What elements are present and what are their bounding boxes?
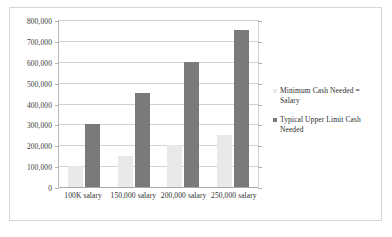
- y-axis-tick-label: 400,000: [27, 100, 52, 109]
- bars-layer: [59, 20, 258, 187]
- y-axis-tick-label: 100,000: [27, 163, 52, 172]
- legend-item[interactable]: Minimum Cash Needed = Salary: [273, 86, 377, 106]
- plot-area: 800,000700,000600,000500,000400,000300,0…: [58, 20, 259, 187]
- bar: [234, 30, 249, 187]
- bar: [85, 124, 100, 187]
- legend-label: Minimum Cash Needed = Salary: [280, 86, 377, 106]
- bar: [184, 62, 199, 187]
- y-axis-tick-mark-right: [258, 84, 262, 85]
- bar: [118, 156, 133, 187]
- y-axis-tick-label: 800,000: [27, 17, 52, 26]
- x-axis-label: 150,000 salary: [108, 191, 158, 201]
- y-axis-tick-mark-right: [258, 42, 262, 43]
- chart-container: 800,000700,000600,000500,000400,000300,0…: [9, 7, 382, 221]
- x-axis-label: 100K salary: [58, 191, 108, 201]
- legend-swatch-icon: [273, 118, 277, 122]
- y-axis-tick-label: 600,000: [27, 58, 52, 67]
- y-axis-tick-mark-right: [258, 63, 262, 64]
- x-axis-label: 250,000 salary: [209, 191, 259, 201]
- y-axis-tick-mark-right: [258, 125, 262, 126]
- gridline: 0: [59, 187, 258, 188]
- y-axis-tick-mark-right: [258, 146, 262, 147]
- chart-legend: Minimum Cash Needed = SalaryTypical Uppe…: [273, 86, 377, 144]
- legend-label: Typical Upper Limit Cash Needed: [280, 115, 377, 135]
- bar-group: [109, 20, 159, 187]
- bar-group: [159, 20, 209, 187]
- y-axis-tick-label: 0: [48, 184, 52, 193]
- y-axis-tick-mark-right: [258, 105, 262, 106]
- y-axis-tick-mark-right: [258, 21, 262, 22]
- y-axis-tick-label: 500,000: [27, 79, 52, 88]
- bar: [135, 93, 150, 187]
- y-axis-tick-label: 700,000: [27, 37, 52, 46]
- bar: [167, 145, 182, 187]
- legend-item[interactable]: Typical Upper Limit Cash Needed: [273, 115, 377, 135]
- y-axis-tick-mark-right: [258, 188, 262, 189]
- y-axis-tick-label: 300,000: [27, 121, 52, 130]
- y-axis-tick-mark-right: [258, 167, 262, 168]
- legend-swatch-icon: [273, 89, 277, 93]
- bar-group: [208, 20, 258, 187]
- y-axis-tick-mark: [55, 188, 59, 189]
- bar: [217, 135, 232, 187]
- x-axis-labels: 100K salary150,000 salary200,000 salary2…: [58, 191, 259, 201]
- bar-group: [59, 20, 109, 187]
- bar: [68, 166, 83, 187]
- x-axis-label: 200,000 salary: [159, 191, 209, 201]
- y-axis-tick-label: 200,000: [27, 142, 52, 151]
